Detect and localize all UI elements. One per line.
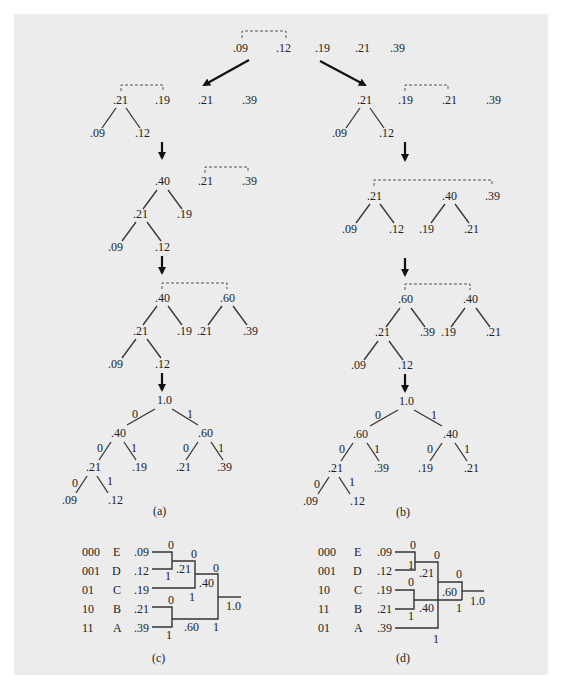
node-label: .19: [419, 222, 434, 236]
branch-label: 1: [107, 474, 113, 488]
branch-label: 0: [97, 441, 103, 455]
node-label: .21: [419, 566, 434, 580]
node-label: .39: [374, 461, 389, 475]
node-label: .21: [86, 460, 101, 474]
node-label: .09: [332, 126, 347, 140]
node-label: .19: [315, 41, 330, 55]
node-label: .40: [419, 601, 434, 615]
arrow-left-icon: [204, 60, 249, 85]
symbol-label: B: [113, 602, 121, 616]
node-label: .12: [108, 493, 123, 507]
code-label: 11: [318, 602, 330, 616]
code-label: 000: [318, 545, 336, 559]
branch-label: 1: [166, 628, 172, 642]
node-label: .21: [198, 174, 213, 188]
branch-label: 1: [464, 442, 470, 456]
arrow-right-icon: [320, 61, 365, 85]
prob-label: .12: [377, 564, 392, 578]
node-label: .12: [398, 358, 413, 372]
node-label: .19: [177, 324, 192, 338]
symbol-label: E: [354, 545, 361, 559]
node-label: .21: [133, 207, 148, 221]
merge-bracket: [242, 31, 286, 38]
code-label: 11: [82, 621, 94, 635]
code-label: 001: [318, 564, 336, 578]
node-label: 1.0: [226, 599, 241, 613]
prob-label: .12: [134, 564, 149, 578]
symbol-label: C: [354, 583, 362, 597]
node-label: .19: [441, 325, 456, 339]
branch-label: 1: [408, 609, 414, 623]
panel-d: 000 E .09 001 D .12 10 C .19 11 B .21 01…: [318, 538, 485, 665]
panel-b: .21 .19 .21 .39 .09 .12 .21 .40 .39 .09 …: [303, 85, 501, 519]
branch-label: 1: [187, 407, 193, 421]
node-label: .60: [398, 292, 413, 306]
node-label: 1.0: [470, 594, 485, 608]
code-label: 10: [82, 602, 94, 616]
node-label: .39: [390, 41, 405, 55]
branch-label: 1: [349, 475, 355, 489]
node-label: .12: [389, 222, 404, 236]
merge-bracket: [405, 284, 470, 290]
branch-label: 0: [375, 408, 381, 422]
node-label: .21: [486, 325, 501, 339]
symbol-label: D: [112, 564, 121, 578]
branch-label: 0: [434, 548, 440, 562]
prob-label: .19: [134, 583, 149, 597]
merge-bracket: [205, 167, 248, 173]
node-label: 1.0: [157, 393, 172, 407]
branch-label: 0: [339, 442, 345, 456]
branch-label: 1: [433, 632, 439, 646]
node-label: .39: [242, 93, 257, 107]
node-label: .09: [233, 41, 248, 55]
panel-c: 000 E .09 001 D .12 01 C .19 10 B .21 11…: [82, 538, 241, 665]
prob-label: .09: [134, 545, 149, 559]
node-label: .21: [197, 324, 212, 338]
node-label: .40: [443, 427, 458, 441]
branch-label: 1: [374, 442, 380, 456]
merge-bracket: [121, 85, 163, 91]
prob-label: .09: [377, 545, 392, 559]
node-label: .60: [220, 291, 235, 305]
node-label: .40: [155, 174, 170, 188]
node-label: .40: [155, 291, 170, 305]
branch-label: 0: [427, 442, 433, 456]
branch-label: 1: [131, 441, 137, 455]
join-bracket: [395, 590, 414, 609]
node-label: .39: [217, 460, 232, 474]
caption-d: (d): [396, 651, 410, 665]
node-label: .21: [367, 189, 382, 203]
branch-label: 0: [410, 538, 416, 552]
branch-label: 0: [183, 441, 189, 455]
node-label: .60: [198, 426, 213, 440]
panel-a: .21 .19 .21 .39 .09 .12 .40 .21 .39 .21 …: [62, 85, 258, 518]
node-label: .21: [176, 562, 191, 576]
branch-label: 0: [213, 561, 219, 575]
node-label: .39: [486, 93, 501, 107]
node-label: .09: [351, 358, 366, 372]
node-label: .60: [184, 620, 199, 634]
branch-label: 0: [408, 575, 414, 589]
huffman-figure: .09 .12 .19 .21 .39 .21 .19 .21 .39 .09 …: [0, 0, 570, 696]
join-bracket: [152, 552, 172, 569]
branch-label: 1: [165, 569, 171, 583]
merge-bracket: [405, 85, 448, 91]
node-label: .21: [464, 461, 479, 475]
prob-label: .21: [377, 602, 392, 616]
caption-c: (c): [152, 651, 165, 665]
node-label: .39: [420, 325, 435, 339]
node-label: .09: [342, 222, 357, 236]
branch-label: 1: [189, 590, 195, 604]
node-label: .09: [303, 494, 318, 508]
node-label: .60: [442, 585, 457, 599]
node-label: .12: [379, 126, 394, 140]
node-label: .12: [350, 494, 365, 508]
node-label: .21: [442, 93, 457, 107]
branch-label: 0: [72, 476, 78, 490]
node-label: .21: [176, 460, 191, 474]
node-label: .09: [108, 357, 123, 371]
branch-label: 0: [314, 477, 320, 491]
node-label: .19: [398, 93, 413, 107]
node-label: .40: [463, 292, 478, 306]
join-bracket: [152, 607, 172, 627]
